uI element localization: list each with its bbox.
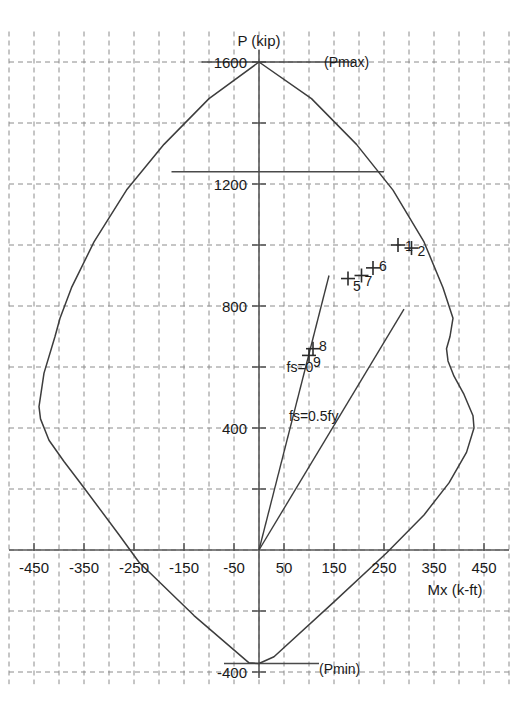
x-tick-label: 150 xyxy=(321,559,346,576)
fs-half-fy-ray xyxy=(259,309,404,550)
x-axis-title: Mx (k-ft) xyxy=(428,581,483,598)
x-tick-label: -50 xyxy=(223,559,245,576)
x-tick-label: -450 xyxy=(19,559,49,576)
pmax-label: (Pmax) xyxy=(324,54,369,70)
data-point-marker: 1 xyxy=(391,238,413,254)
data-point-label: 6 xyxy=(379,258,387,274)
y-axis-title: P (kip) xyxy=(237,32,280,49)
y-tick-label: -400 xyxy=(217,664,247,681)
pmin-label: (Pmin) xyxy=(319,661,360,677)
annotations-layer: (Pmax)(Pmin)fs=0fs=0.5fy xyxy=(287,54,370,677)
x-tick-label: 450 xyxy=(471,559,496,576)
data-point-label: 2 xyxy=(418,243,426,259)
data-point-label: 8 xyxy=(319,338,327,354)
y-tick-label: 400 xyxy=(222,420,247,437)
x-tick-label: 250 xyxy=(371,559,396,576)
x-tick-label: 350 xyxy=(421,559,446,576)
x-tick-label: -250 xyxy=(119,559,149,576)
y-tick-label: 1200 xyxy=(214,176,247,193)
data-point-label: 9 xyxy=(313,354,321,370)
data-point-label: 5 xyxy=(353,278,361,294)
fs0-label: fs=0 xyxy=(287,359,314,375)
y-tick-label: 1600 xyxy=(214,54,247,71)
pm-interaction-chart: 1256789 -450-350-250-150-505015025035045… xyxy=(0,0,510,720)
y-tick-label: 800 xyxy=(222,298,247,315)
fs05fy-label: fs=0.5fy xyxy=(289,408,338,424)
interaction-diagram-figure: 1256789 -450-350-250-150-505015025035045… xyxy=(0,0,510,720)
x-tick-label: 50 xyxy=(276,559,293,576)
data-point-markers-layer: 1256789 xyxy=(302,238,426,370)
data-point-label: 7 xyxy=(365,273,373,289)
x-tick-label: -150 xyxy=(169,559,199,576)
x-tick-label: -350 xyxy=(69,559,99,576)
